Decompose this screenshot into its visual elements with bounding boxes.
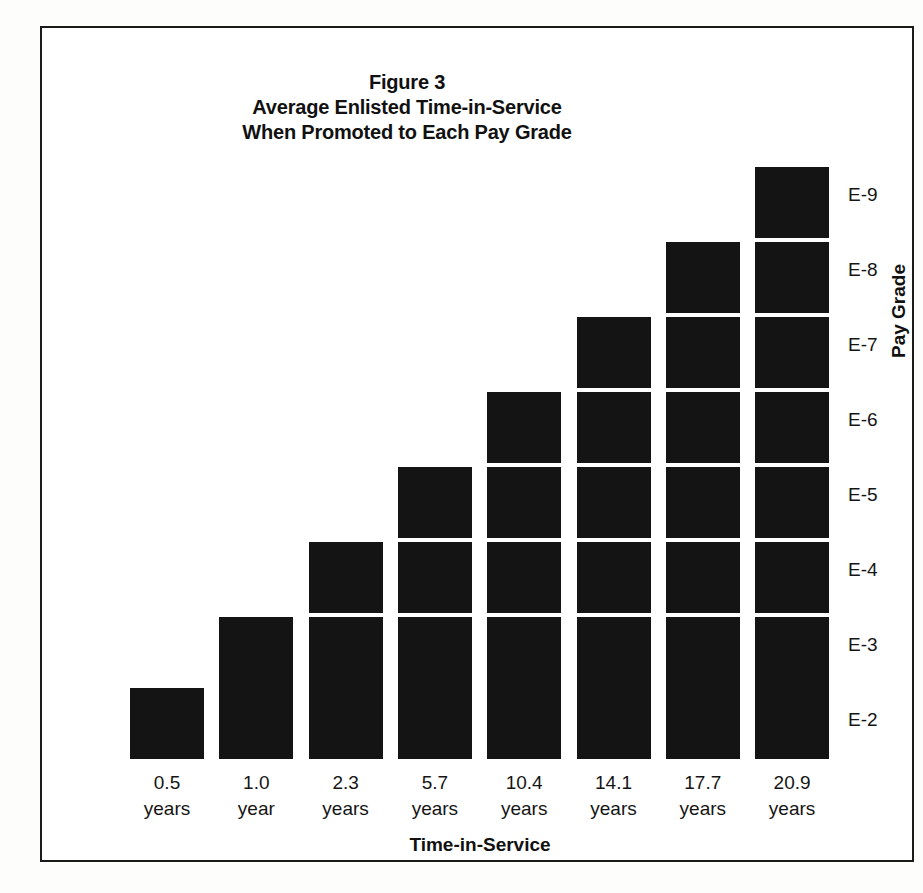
block-cell xyxy=(577,467,651,538)
block-cell xyxy=(755,242,829,313)
x-axis-title: Time-in-Service xyxy=(130,834,830,856)
block-cell xyxy=(130,688,204,759)
block-cell xyxy=(755,688,829,759)
block-cell xyxy=(577,688,651,759)
y-tick-label-E-6: E-6 xyxy=(848,384,908,455)
block-cell xyxy=(487,467,561,538)
x-tick-unit: years xyxy=(666,796,740,822)
block-cell xyxy=(755,392,829,463)
block-cell xyxy=(309,542,383,613)
block-cell xyxy=(577,392,651,463)
block-cell xyxy=(398,617,472,688)
y-tick-label-E-4: E-4 xyxy=(848,534,908,605)
x-tick-value: 1.0 xyxy=(219,770,293,796)
block-cell xyxy=(666,242,740,313)
block-cell xyxy=(666,688,740,759)
x-tick-unit: years xyxy=(487,796,561,822)
x-tick-label-0: 0.5years xyxy=(130,770,204,822)
x-tick-label-3: 5.7years xyxy=(398,770,472,822)
block-cell xyxy=(309,617,383,688)
chart-title: Figure 3 Average Enlisted Time-in-Servic… xyxy=(42,70,772,145)
y-tick-label-E-5: E-5 xyxy=(848,459,908,530)
block-cell xyxy=(487,688,561,759)
x-tick-value: 2.3 xyxy=(309,770,383,796)
block-cell xyxy=(487,617,561,688)
bar-column-E-3 xyxy=(219,613,293,759)
block-cell xyxy=(398,688,472,759)
block-cell xyxy=(755,542,829,613)
bar-column-E-5 xyxy=(398,463,472,759)
chart-title-line-3: When Promoted to Each Pay Grade xyxy=(42,120,772,145)
block-cell xyxy=(755,317,829,388)
x-tick-value: 5.7 xyxy=(398,770,472,796)
x-tick-label-4: 10.4years xyxy=(487,770,561,822)
block-cell xyxy=(755,167,829,238)
block-cell xyxy=(577,617,651,688)
bar-column-E-9 xyxy=(755,163,829,759)
x-tick-label-6: 17.7years xyxy=(666,770,740,822)
x-tick-label-1: 1.0year xyxy=(219,770,293,822)
block-cell xyxy=(398,467,472,538)
block-cell xyxy=(219,688,293,759)
y-tick-label-E-2: E-2 xyxy=(848,684,908,755)
chart-title-line-2: Average Enlisted Time-in-Service xyxy=(42,95,772,120)
block-cell xyxy=(487,392,561,463)
y-tick-label-E-3: E-3 xyxy=(848,609,908,680)
y-axis-title: Pay Grade xyxy=(888,168,910,358)
x-tick-value: 10.4 xyxy=(487,770,561,796)
block-cell xyxy=(577,542,651,613)
figure-frame: Figure 3 Average Enlisted Time-in-Servic… xyxy=(40,26,914,862)
block-cell xyxy=(666,617,740,688)
block-cell xyxy=(666,392,740,463)
block-cell xyxy=(398,542,472,613)
x-tick-unit: year xyxy=(219,796,293,822)
bar-column-E-4 xyxy=(309,538,383,759)
x-tick-value: 14.1 xyxy=(577,770,651,796)
block-cell xyxy=(219,617,293,688)
block-cell xyxy=(755,467,829,538)
block-cell xyxy=(755,617,829,688)
x-tick-value: 20.9 xyxy=(755,770,829,796)
x-tick-unit: years xyxy=(577,796,651,822)
x-tick-label-2: 2.3years xyxy=(309,770,383,822)
x-axis-tick-labels: 0.5years1.0year2.3years5.7years10.4years… xyxy=(130,770,830,826)
x-tick-unit: years xyxy=(398,796,472,822)
x-tick-value: 17.7 xyxy=(666,770,740,796)
block-cell xyxy=(309,688,383,759)
block-cell xyxy=(577,317,651,388)
bar-column-E-7 xyxy=(577,313,651,759)
block-cell xyxy=(487,542,561,613)
x-tick-unit: years xyxy=(755,796,829,822)
bar-column-E-2 xyxy=(130,688,204,759)
bar-column-E-6 xyxy=(487,388,561,759)
block-cell xyxy=(666,317,740,388)
plot-area xyxy=(130,159,830,759)
block-cell xyxy=(666,467,740,538)
x-tick-value: 0.5 xyxy=(130,770,204,796)
x-tick-label-7: 20.9years xyxy=(755,770,829,822)
block-cell xyxy=(666,542,740,613)
x-tick-unit: years xyxy=(309,796,383,822)
bar-column-E-8 xyxy=(666,238,740,759)
x-tick-unit: years xyxy=(130,796,204,822)
chart-title-line-1: Figure 3 xyxy=(42,70,772,95)
x-tick-label-5: 14.1years xyxy=(577,770,651,822)
